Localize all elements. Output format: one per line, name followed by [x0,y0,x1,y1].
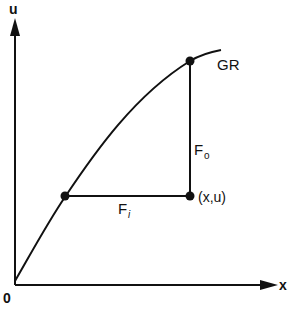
lower-curve-point [61,192,70,201]
fo-label: F o [194,141,210,161]
fi-label: F i [118,200,131,220]
y-axis-arrow-icon [10,18,20,36]
y-axis [10,18,20,285]
state-point-label: (x,u) [198,189,226,205]
gr-curve-label: GR [217,56,240,73]
origin-label: 0 [3,290,11,306]
svg-text:F: F [194,141,203,158]
svg-text:F: F [118,200,127,217]
upper-curve-point [186,57,195,66]
svg-text:o: o [204,150,210,161]
svg-text:i: i [128,209,131,220]
state-point [186,192,195,201]
y-axis-label: u [9,1,18,17]
diagram-canvas: u x 0 GR (x,u) F o F i [0,0,291,313]
x-axis-label: x [279,277,287,293]
x-axis-arrow-icon [260,280,278,290]
x-axis [15,280,278,290]
